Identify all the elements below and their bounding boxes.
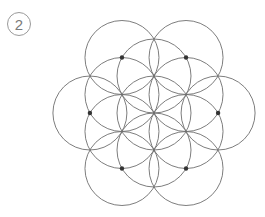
center-point-dot (184, 55, 188, 59)
center-point-dot (184, 166, 188, 170)
center-point-dot (88, 111, 92, 115)
center-point-dot (216, 111, 220, 115)
center-point-dot (120, 55, 124, 59)
center-point-dot (120, 166, 124, 170)
overlapping-circles-diagram (0, 0, 265, 217)
